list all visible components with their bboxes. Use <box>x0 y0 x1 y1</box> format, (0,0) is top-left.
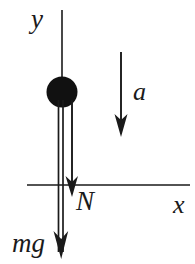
diagram-canvas <box>0 0 195 264</box>
normal-force-vector-label: N <box>76 188 94 215</box>
acceleration-vector-label: a <box>133 79 146 105</box>
x-axis-label: x <box>173 192 185 218</box>
y-axis-label: y <box>31 6 43 33</box>
weight-vector-label: mg <box>12 230 45 257</box>
physics-free-body-diagram: y x a N mg <box>0 0 195 264</box>
mg-vector-arrowhead <box>54 231 69 259</box>
